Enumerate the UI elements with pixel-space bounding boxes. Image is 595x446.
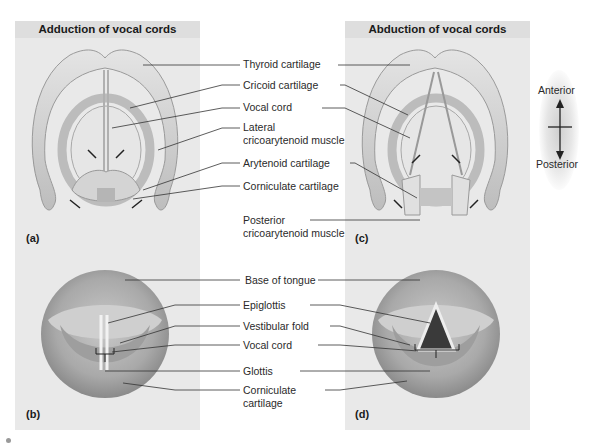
panel-label-d: (d) [355, 408, 369, 420]
label-corniculate-cartilage-top: Corniculate cartilage [243, 180, 339, 193]
label-lateral-cricoarytenoid: Lateral cricoarytenoid muscle [243, 121, 345, 146]
laryngoscope-view-abducted [372, 270, 500, 398]
label-vestibular-fold: Vestibular fold [243, 320, 311, 333]
orientation-indicator: Anterior Posterior [525, 70, 595, 190]
label-posterior-line2: cricoarytenoid muscle [243, 227, 345, 240]
label-corniculate-line1: Corniculate [243, 384, 298, 397]
label-glottis: Glottis [243, 365, 275, 378]
label-cricoid-cartilage: Cricoid cartilage [243, 79, 320, 92]
label-lateral-line2: cricoarytenoid muscle [243, 134, 345, 147]
label-base-of-tongue: Base of tongue [243, 274, 318, 287]
orientation-posterior: Posterior [536, 158, 578, 170]
label-arytenoid-cartilage: Arytenoid cartilage [243, 157, 332, 170]
panel-label-b: (b) [26, 408, 40, 420]
label-vocal-cord-bottom: Vocal cord [243, 339, 294, 352]
label-thyroid-cartilage: Thyroid cartilage [243, 58, 323, 71]
label-corniculate-line2: cartilage [243, 397, 298, 410]
label-corniculate-cartilage-bottom: Corniculate cartilage [243, 384, 298, 409]
orientation-arrows-icon [525, 70, 595, 190]
label-vocal-cord-top: Vocal cord [243, 101, 294, 114]
corner-mark [6, 438, 11, 443]
label-posterior-cricoarytenoid: Posterior cricoarytenoid muscle [243, 214, 345, 239]
larynx-abduction-illustration [362, 50, 508, 215]
label-epiglottis: Epiglottis [243, 299, 288, 312]
panel-label-a: (a) [26, 232, 39, 244]
label-posterior-line1: Posterior [243, 214, 287, 227]
panel-label-c: (c) [355, 232, 368, 244]
label-lateral-line1: Lateral [243, 121, 345, 134]
